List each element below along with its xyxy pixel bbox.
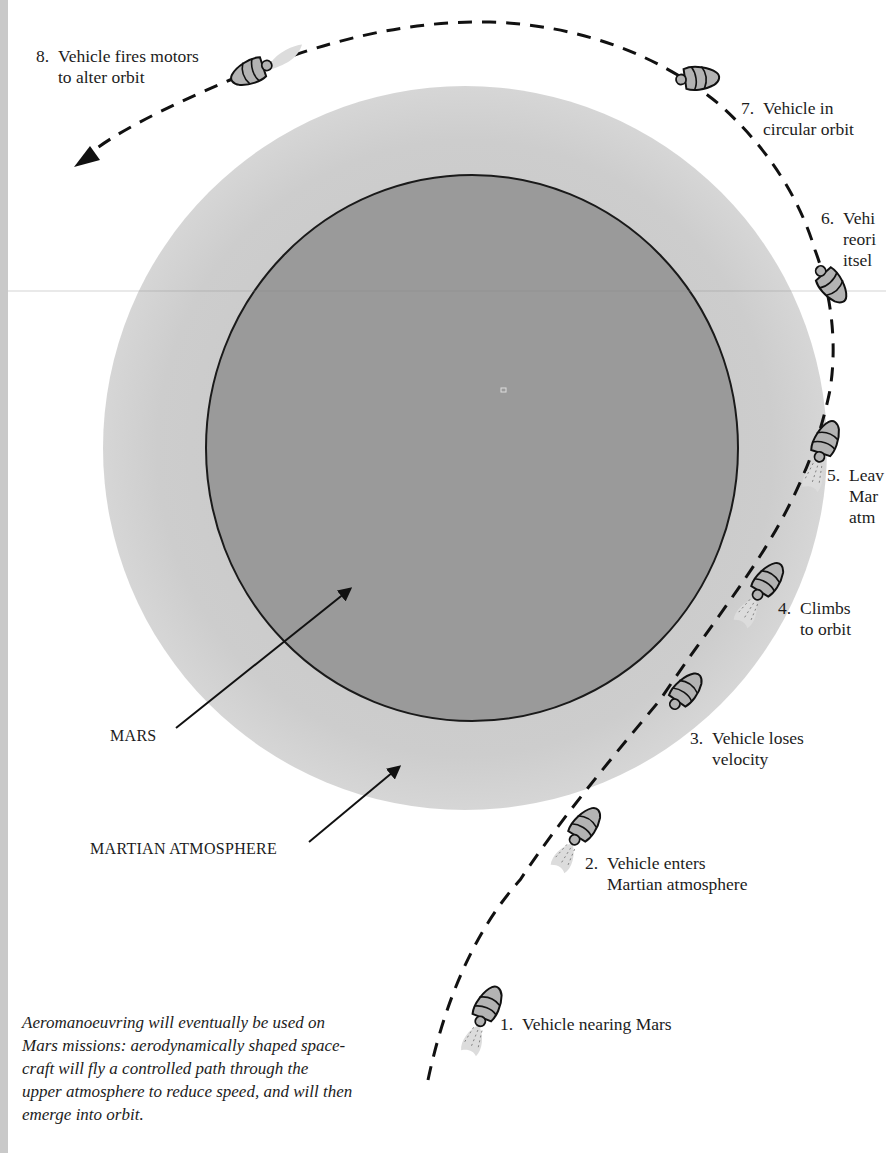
step-4-label: 4.Climbs to orbit <box>778 598 851 640</box>
step-8-label: 8.Vehicle fires motors to alter orbit <box>36 46 199 88</box>
vehicle-1-icon <box>457 982 506 1058</box>
vehicle-8-icon <box>227 43 309 90</box>
figure-caption: Aeromanoeuvring will eventually be used … <box>22 1011 442 1126</box>
mars-label: MARS <box>110 725 157 746</box>
step-1-label: 1.Vehicle nearing Mars <box>500 1014 672 1035</box>
step-5-label: 5.Leav Mar atm <box>827 465 886 528</box>
vehicle-7-icon <box>675 63 721 92</box>
step-3-label: 3.Vehicle loses velocity <box>690 728 804 770</box>
trajectory-arrowhead <box>74 146 100 167</box>
step-6-label: 6.Vehi reori itsel <box>821 208 886 271</box>
aeromanoeuvre-diagram <box>0 0 886 1153</box>
martian-atmosphere-label: MARTIAN ATMOSPHERE <box>90 838 277 859</box>
step-7-label: 7.Vehicle in circular orbit <box>741 98 854 140</box>
step-2-label: 2.Vehicle enters Martian atmosphere <box>585 853 747 895</box>
